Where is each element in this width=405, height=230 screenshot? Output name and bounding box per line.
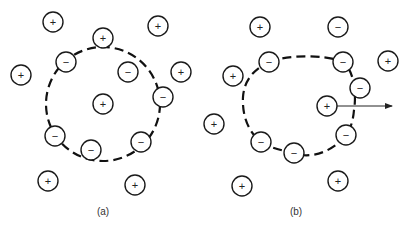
cation-icon: + (171, 62, 191, 82)
svg-text:+: + (100, 32, 106, 44)
cation-icon: + (93, 94, 113, 114)
svg-text:−: − (160, 91, 166, 103)
svg-text:−: − (88, 144, 94, 156)
svg-text:+: + (230, 70, 236, 82)
anion-icon: − (333, 52, 353, 72)
cation-icon: + (11, 65, 31, 85)
anion-icon: − (259, 52, 279, 72)
svg-text:−: − (63, 56, 69, 68)
anion-icon: − (284, 143, 304, 163)
svg-text:+: + (155, 20, 161, 32)
anion-icon: − (131, 132, 151, 152)
svg-text:+: + (18, 69, 24, 81)
svg-text:−: − (335, 21, 341, 33)
panel-b-label: (b) (290, 206, 302, 217)
anion-icon: − (328, 17, 348, 37)
svg-text:+: + (324, 100, 330, 112)
svg-text:−: − (340, 56, 346, 68)
panel-b: +−−−++−++−−−++ (204, 17, 398, 196)
cation-icon: + (93, 28, 113, 48)
anion-icon: − (336, 125, 356, 145)
svg-text:+: + (45, 175, 51, 187)
anion-icon: − (81, 140, 101, 160)
cation-icon: + (232, 176, 252, 196)
svg-text:+: + (211, 118, 217, 130)
cation-icon: + (38, 171, 58, 191)
anion-icon: − (350, 78, 370, 98)
cation-icon: + (317, 96, 337, 116)
anion-icon: − (153, 87, 173, 107)
anion-icon: − (56, 52, 76, 72)
svg-text:+: + (239, 180, 245, 192)
svg-text:−: − (138, 136, 144, 148)
svg-text:−: − (52, 130, 58, 142)
cation-icon: + (328, 171, 348, 191)
svg-text:+: + (257, 21, 263, 33)
cation-icon: + (43, 12, 63, 32)
svg-text:+: + (132, 179, 138, 191)
svg-text:+: + (100, 98, 106, 110)
svg-text:−: − (258, 136, 264, 148)
cation-icon: + (223, 66, 243, 86)
cation-icon: + (204, 114, 224, 134)
svg-text:+: + (50, 16, 56, 28)
cation-icon: + (378, 51, 398, 71)
cation-icon: + (125, 175, 145, 195)
svg-text:−: − (291, 147, 297, 159)
cation-icon: + (148, 16, 168, 36)
anion-icon: − (118, 62, 138, 82)
anion-icon: − (45, 126, 65, 146)
ionic-atmosphere-diagram: +++−−++−+−−−++ +−−−++−++−−−++ (0, 0, 405, 230)
panel-a: +++−−++−+−−−++ (11, 12, 191, 195)
svg-text:+: + (385, 55, 391, 67)
panel-a-label: (a) (97, 206, 109, 217)
svg-text:−: − (357, 82, 363, 94)
svg-text:−: − (125, 66, 131, 78)
svg-text:+: + (178, 66, 184, 78)
cation-icon: + (250, 17, 270, 37)
anion-icon: − (251, 132, 271, 152)
svg-text:+: + (335, 175, 341, 187)
svg-text:−: − (266, 56, 272, 68)
svg-text:−: − (343, 129, 349, 141)
